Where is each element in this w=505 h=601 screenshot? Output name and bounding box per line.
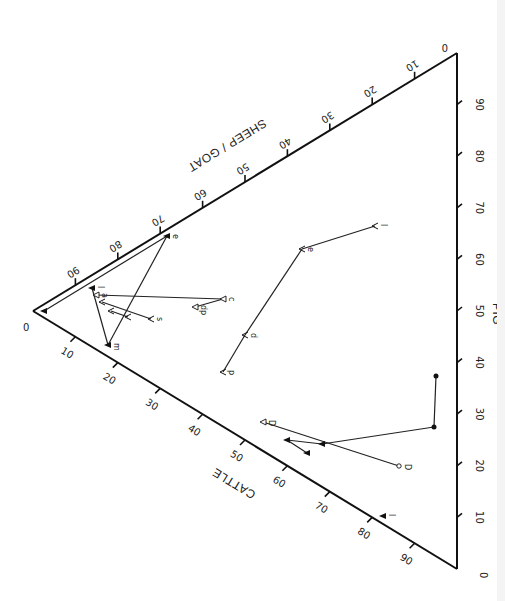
pig-tick-label: 40 [474, 356, 485, 369]
point-label: s [155, 317, 164, 321]
point-label: d [249, 333, 258, 338]
sheep-goat-tick-label: 50 [235, 161, 252, 177]
pig-tick-label: 30 [474, 408, 485, 421]
page-edge [497, 0, 505, 601]
sheep-goat-axis-label: SHEEP / GOAT [185, 116, 269, 175]
cattle-tick [70, 337, 75, 342]
filled-circle-marker [434, 374, 439, 379]
cattle-tick [410, 543, 415, 548]
sheep-goat-tick-label: 80 [107, 238, 124, 254]
cattle-tick [367, 517, 372, 522]
apex-top-label: 0 [442, 42, 448, 53]
cattle-tick-label: 90 [398, 551, 415, 567]
open-triangle-marker [220, 296, 226, 302]
cattle-tick-label: 30 [144, 396, 161, 412]
connection-line [44, 236, 167, 311]
point-label: e [171, 234, 180, 239]
sheep-goat-tick-label: 90 [65, 264, 82, 280]
sheep-goat-tick-label: 10 [404, 58, 421, 74]
cattle-tick-label: 50 [229, 448, 246, 464]
data-point-a0 [40, 308, 47, 314]
cattle-axis-label: CATTLE [210, 465, 258, 502]
pig-tick-label: 70 [474, 201, 485, 214]
apex-left-label: 0 [23, 322, 29, 333]
pig-tick-label: 80 [474, 150, 485, 163]
cattle-tick-label: 10 [59, 345, 76, 361]
connection-line [322, 427, 434, 444]
connection-line [434, 376, 436, 427]
point-label: l [379, 224, 388, 226]
ternary-chart: 9080706050403020101020304050607080901020… [0, 0, 505, 601]
data-point-Vp: p [220, 369, 236, 375]
apex-bottom-label: 0 [478, 572, 489, 578]
pig-tick-label: 50 [474, 305, 485, 318]
connection-line [223, 335, 245, 372]
open-triangle-marker [192, 304, 198, 310]
data-point-dp1: dp [192, 304, 208, 315]
data-point-m1: m [104, 342, 121, 351]
open-circle-marker [397, 464, 401, 468]
cattle-tick [282, 466, 287, 471]
cattle-tick [113, 363, 118, 368]
pig-tick-label: 20 [474, 459, 485, 472]
pig-tick-label: 90 [474, 98, 485, 111]
cattle-tick-label: 20 [101, 371, 118, 387]
filled-triangle-marker [379, 513, 386, 519]
point-label: dp [199, 305, 208, 315]
point-label: m [112, 343, 121, 351]
sheep-goat-tick-label: 40 [277, 135, 294, 151]
sheep-goat-tick-label: 20 [362, 84, 379, 100]
point-label: D [267, 420, 276, 426]
data-point-a1: a [93, 292, 109, 298]
data-point-b1 [432, 425, 437, 430]
data-points: elamscdppdelDDl [40, 223, 439, 519]
connection-line [245, 249, 302, 335]
data-point-f2 [318, 441, 325, 447]
connection-line [263, 422, 399, 466]
cattle-tick-label: 40 [186, 422, 203, 438]
filled-triangle-marker [318, 441, 325, 447]
connection-line [302, 226, 375, 249]
data-point-f1 [283, 437, 290, 443]
pig-tick-label: 10 [474, 511, 485, 524]
cattle-tick [155, 388, 160, 393]
data-point-T1: l [379, 513, 396, 519]
cattle-tick [198, 414, 203, 419]
pig-tick-label: 60 [474, 253, 485, 266]
cattle-tick [240, 440, 245, 445]
point-label: l [387, 514, 396, 516]
axis-labels: SHEEP / GOAT CATTLE PIG 0 0 0 [23, 42, 504, 578]
cattle-tick-label: 60 [271, 474, 288, 490]
cattle-tick-label: 80 [356, 525, 373, 541]
sheep-goat-tick-label: 60 [192, 187, 209, 203]
point-label: e [306, 247, 315, 252]
filled-triangle-marker [40, 308, 47, 314]
data-point-l1: l [88, 285, 105, 291]
data-point-c1: c [220, 296, 236, 302]
sheep-goat-tick-label: 70 [150, 213, 167, 229]
point-label: p [227, 370, 236, 375]
data-point-D2: D [397, 464, 412, 470]
cattle-tick-label: 70 [313, 500, 330, 516]
data-point-b2 [434, 374, 439, 379]
point-label: c [227, 297, 236, 301]
sheep-goat-tick-label: 30 [319, 109, 336, 125]
connection-line [96, 295, 223, 299]
point-label: D [403, 464, 412, 470]
filled-circle-marker [432, 425, 437, 430]
point-label: a [100, 293, 109, 298]
filled-triangle-marker [88, 285, 95, 291]
point-label: l [96, 286, 105, 288]
connection-lines [44, 226, 436, 466]
cattle-tick [325, 492, 330, 497]
axis-ticks: 9080706050403020101020304050607080901020… [59, 58, 485, 567]
open-triangle-marker [260, 419, 266, 425]
data-point-D1: D [260, 419, 276, 426]
filled-triangle-marker [283, 437, 290, 443]
